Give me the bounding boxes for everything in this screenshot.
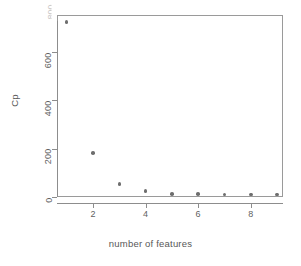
- plot-frame: [57, 15, 283, 197]
- x-tick-mark: [93, 203, 94, 208]
- x-tick-mark: [251, 203, 252, 208]
- y-tick-label: 200: [45, 149, 54, 165]
- data-point: [91, 151, 95, 155]
- data-point: [118, 182, 122, 186]
- y-tick-label: 600: [45, 52, 54, 68]
- x-axis-title: number of features: [0, 238, 301, 249]
- scatter-plot-figure: 0200400600800 2468 number of features Cp: [0, 0, 301, 266]
- y-tick-label: 0: [45, 197, 54, 202]
- y-axis-line: [57, 21, 58, 197]
- data-point: [170, 192, 174, 196]
- y-tick-label: 400: [45, 100, 54, 116]
- x-tick-label: 8: [248, 210, 253, 219]
- x-tick-label: 6: [196, 210, 201, 219]
- x-tick-mark: [146, 203, 147, 208]
- x-tick-label: 2: [90, 210, 95, 219]
- x-tick-mark: [198, 203, 199, 208]
- data-point: [249, 193, 253, 197]
- y-axis-title: Cp: [9, 94, 20, 107]
- data-point: [196, 192, 200, 196]
- x-axis-line: [57, 203, 283, 204]
- x-tick-label: 4: [143, 210, 148, 219]
- y-tick-label-clipped: 800: [47, 4, 52, 19]
